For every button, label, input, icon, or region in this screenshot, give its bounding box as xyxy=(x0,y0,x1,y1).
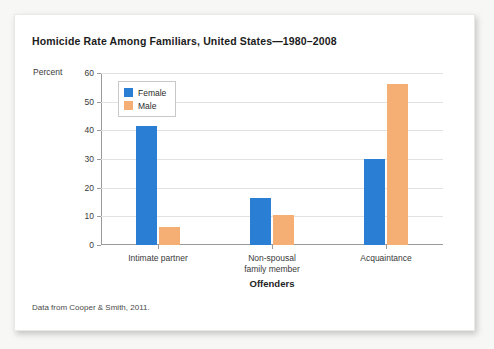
bar-female xyxy=(250,198,271,245)
bar-female xyxy=(364,159,385,245)
x-tick-label-line: family member xyxy=(212,264,332,275)
legend-swatch-icon xyxy=(124,101,133,110)
bar-male xyxy=(273,215,294,245)
x-tick-mark xyxy=(272,245,273,249)
bar-group: Non-spousalfamily member xyxy=(250,73,294,245)
bar-female xyxy=(136,126,157,245)
bar-group: Acquaintance xyxy=(364,73,408,245)
y-tick-mark xyxy=(97,216,101,217)
legend-swatch-icon xyxy=(124,88,133,97)
y-tick-mark xyxy=(97,102,101,103)
y-tick-mark xyxy=(97,159,101,160)
y-tick-label: 10 xyxy=(85,211,94,221)
y-tick-mark xyxy=(97,130,101,131)
bar-male xyxy=(159,227,180,245)
legend-label: Male xyxy=(138,101,156,111)
page-background: Homicide Rate Among Familiars, United St… xyxy=(0,0,494,349)
x-tick-label-line: Non-spousal xyxy=(212,253,332,264)
source-note: Data from Cooper & Smith, 2011. xyxy=(32,303,150,312)
x-tick-label: Non-spousalfamily member xyxy=(212,253,332,275)
chart-legend: FemaleMale xyxy=(118,81,176,117)
legend-label: Female xyxy=(138,88,166,98)
legend-item-male: Male xyxy=(124,99,166,112)
x-tick-label: Intimate partner xyxy=(98,253,218,264)
x-tick-label: Acquaintance xyxy=(326,253,446,264)
x-tick-label-line: Acquaintance xyxy=(326,253,446,264)
x-tick-mark xyxy=(158,245,159,249)
bar-male xyxy=(387,84,408,245)
y-tick-label: 40 xyxy=(85,125,94,135)
chart-title: Homicide Rate Among Familiars, United St… xyxy=(32,35,337,47)
y-tick-mark xyxy=(97,73,101,74)
y-tick-label: 50 xyxy=(85,97,94,107)
y-tick-mark xyxy=(97,188,101,189)
figure-card: Homicide Rate Among Familiars, United St… xyxy=(14,14,475,331)
x-tick-label-line: Intimate partner xyxy=(98,253,218,264)
y-axis-title: Percent xyxy=(33,67,62,77)
y-tick-label: 20 xyxy=(85,183,94,193)
y-tick-label: 60 xyxy=(85,68,94,78)
x-tick-mark xyxy=(386,245,387,249)
legend-item-female: Female xyxy=(124,86,166,99)
x-axis-title: Offenders xyxy=(101,278,443,289)
y-tick-label: 30 xyxy=(85,154,94,164)
y-tick-label: 0 xyxy=(89,240,94,250)
y-tick-mark xyxy=(97,245,101,246)
